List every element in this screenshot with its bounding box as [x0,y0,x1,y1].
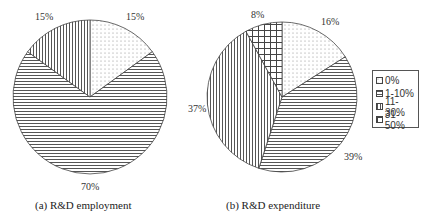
pie-b-label-1-10pct: 39% [344,151,362,162]
pie-b-label-0pct: 16% [321,16,339,27]
vertical-lines-swatch-icon [376,103,383,110]
chart-legend: 0% 1-10% 11-30% 31-50% [372,70,419,128]
legend-item-31-50pct: 31-50% [376,113,418,126]
pie-a [13,20,167,174]
grid-swatch-icon [376,116,383,123]
pie-a-label-11-30pct: 15% [35,11,53,22]
dots-swatch-icon [376,77,383,84]
horizontal-lines-swatch-icon [376,90,383,97]
pie-b-label-31-50pct: 8% [251,9,264,20]
pie-charts [0,0,434,220]
legend-label: 0% [385,75,399,86]
pie-b-label-11-30pct: 37% [188,103,206,114]
legend-item-0pct: 0% [376,74,418,87]
pie-a-label-0pct: 15% [126,11,144,22]
pie-b-caption: (b) R&D expenditure [226,199,320,211]
legend-label: 31-50% [385,109,418,131]
pie-a-label-1-10pct: 70% [81,181,99,192]
pie-b [207,22,357,172]
pie-a-caption: (a) R&D employment [35,199,132,211]
